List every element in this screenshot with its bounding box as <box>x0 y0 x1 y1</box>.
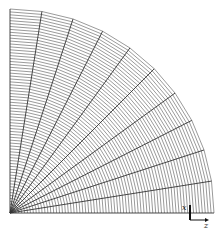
x-axis-label: x <box>182 203 187 212</box>
z-axis-label: z <box>204 221 208 230</box>
axis-arrows-icon <box>0 0 220 230</box>
